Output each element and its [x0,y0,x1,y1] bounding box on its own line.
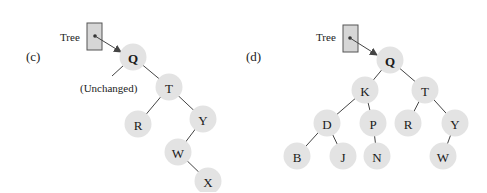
node-key: P [369,117,376,132]
node-key: Q [128,51,138,66]
tree-node-J: J [330,143,357,170]
node-key: W [172,146,185,161]
panel-c-label: (c) [26,49,40,64]
tree-node-K: K [352,77,379,104]
panel-c: (c) Tree (Unchanged) QTRYWX [26,23,222,192]
tree-edge-K-D [336,98,357,116]
tree-node-T: T [412,77,439,104]
tree-edge-D-B [305,132,320,148]
node-key: T [421,84,429,99]
tree-node-Q: Q [120,44,147,71]
tree-node-R: R [395,110,422,137]
node-key: R [134,118,143,133]
tree-edge-Y-W [185,128,196,143]
node-key: D [322,117,331,132]
node-key: Y [198,113,208,128]
diagram-canvas: (c) Tree (Unchanged) QTRYWX (d) Tree QKT… [0,0,487,192]
tree-node-Q: Q [377,47,404,74]
tree-node-N: N [364,143,391,170]
panel-c-unchanged-note: (Unchanged) [80,82,138,95]
tree-node-D: D [314,110,341,137]
tree-node-W: W [430,143,457,170]
tree-edge-Q-T [142,64,160,79]
panel-c-nodes: QTRYWX [120,44,222,193]
tree-node-P: P [360,110,387,137]
node-key: X [203,175,213,190]
node-key: R [404,117,413,132]
tree-edge-T-R [145,96,161,115]
tree-edge-T-R [413,100,419,113]
tree-edge-T-Y [177,95,194,111]
tree-edge-Q-T [399,67,417,82]
tree-edge-T-Y [433,99,448,115]
binary-tree-diagram: (c) Tree (Unchanged) QTRYWX (d) Tree QKT… [0,0,487,192]
tree-edge-D-J [332,133,338,145]
panel-c-tree-label: Tree [60,31,80,43]
node-key: W [437,150,450,165]
panel-c-unchanged-edge [112,65,124,76]
tree-node-B: B [284,143,311,170]
tree-node-Y: Y [190,106,217,133]
node-key: Y [450,117,460,132]
node-key: K [360,84,370,99]
node-key: N [372,150,382,165]
tree-node-W: W [165,139,192,166]
tree-edge-W-X [186,160,199,173]
tree-node-Y: Y [442,110,469,137]
panel-d-label: (d) [246,49,261,64]
node-key: J [340,150,345,165]
node-key: B [293,150,302,165]
panel-d: (d) Tree QKTDPRYBJNW [246,25,469,170]
node-key: T [165,81,173,96]
tree-node-T: T [156,74,183,101]
node-key: Q [385,54,395,69]
tree-node-R: R [125,111,152,138]
tree-edge-Q-K [372,69,382,81]
panel-d-tree-label: Tree [316,31,336,43]
